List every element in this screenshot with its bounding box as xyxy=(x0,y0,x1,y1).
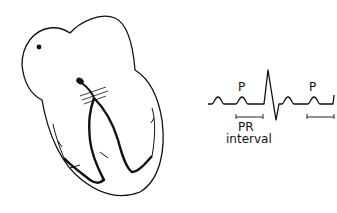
p-wave-label-1: P xyxy=(238,81,245,93)
ecg-trace xyxy=(208,70,334,120)
pr-interval-bracket xyxy=(236,114,263,119)
purkinje-fibers xyxy=(53,108,155,184)
p-wave-label-2: P xyxy=(309,81,316,93)
sa-node-icon xyxy=(37,45,42,50)
left-bundle-branch xyxy=(64,98,104,183)
diagram-canvas xyxy=(0,0,337,213)
bundle-of-his xyxy=(82,83,94,98)
right-bundle-branch xyxy=(94,98,152,172)
pr-interval-bracket-2 xyxy=(307,114,334,119)
interval-label: interval xyxy=(226,133,272,145)
